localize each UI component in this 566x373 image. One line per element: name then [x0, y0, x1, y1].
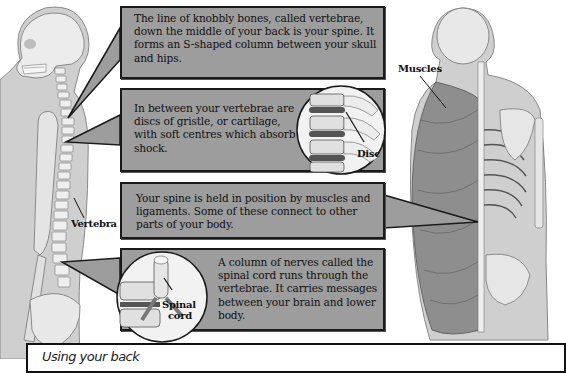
disc-inset-illustration: [292, 84, 390, 176]
spinal-cord-label-line2: cord: [168, 310, 192, 321]
callout-text-discs: In between your vertebrae are discs of g…: [134, 102, 302, 155]
muscles-label: Muscles: [398, 63, 442, 74]
bottom-panel-title: Using your back: [42, 349, 139, 364]
callout-text-spinal-cord: A column of nerves called the spinal cor…: [218, 256, 384, 322]
vertebra-label: Vertebra: [71, 218, 117, 229]
bottom-panel: Using your back: [26, 343, 566, 373]
disc-label: Disc: [357, 148, 380, 159]
callout-text-muscles: Your spine is held in position by muscle…: [136, 192, 381, 232]
spinal-cord-label-line1: Spinal: [162, 299, 196, 310]
back-view-figure: [410, 8, 548, 340]
callout-text-spine: The line of knobbly bones, called verteb…: [134, 12, 382, 65]
side-view-figure: [0, 7, 89, 359]
spinal-cord-inset-illustration: [112, 250, 212, 344]
